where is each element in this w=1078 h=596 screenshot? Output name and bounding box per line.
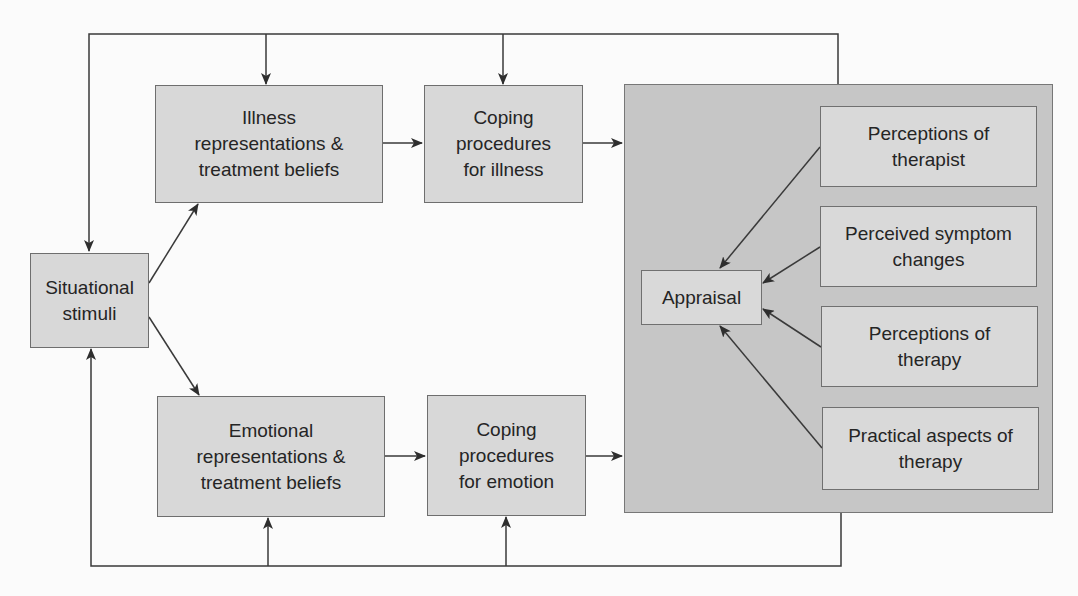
appraisal-box: Appraisal [641,270,762,325]
illness-rep-line1: Illness [195,105,344,131]
illness-rep-line3: treatment beliefs [195,157,344,183]
situational-stimuli-box: Situational stimuli [30,253,149,348]
situational-stimuli-line1: Situational [45,275,134,301]
emotional-rep-line1: Emotional [197,418,346,444]
practical-aspects-box: Practical aspects of therapy [822,407,1039,490]
perceived-symptom-line1: Perceived symptom [845,221,1012,247]
practical-aspects-line1: Practical aspects of [848,423,1013,449]
emotional-rep-line3: treatment beliefs [197,470,346,496]
emotional-representations-box: Emotional representations & treatment be… [157,396,385,517]
appraisal-label: Appraisal [662,285,741,311]
coping-emotion-line3: for emotion [459,469,554,495]
coping-illness-box: Coping procedures for illness [424,85,583,203]
perceived-symptom-changes-box: Perceived symptom changes [820,206,1037,287]
coping-illness-line2: procedures [456,131,551,157]
perceptions-therapist-box: Perceptions of therapist [820,106,1037,187]
situational-stimuli-line2: stimuli [45,301,134,327]
perceptions-therapy-box: Perceptions of therapy [821,306,1038,387]
perceptions-therapist-line2: therapist [868,147,989,173]
coping-illness-line1: Coping [456,105,551,131]
emotional-rep-line2: representations & [197,444,346,470]
perceptions-therapy-line2: therapy [869,347,990,373]
perceptions-therapist-line1: Perceptions of [868,121,989,147]
perceived-symptom-line2: changes [845,247,1012,273]
perceptions-therapy-line1: Perceptions of [869,321,990,347]
coping-emotion-line1: Coping [459,417,554,443]
coping-emotion-line2: procedures [459,443,554,469]
illness-representations-box: Illness representations & treatment beli… [155,85,383,203]
self-regulation-diagram: Situational stimuli Illness representati… [0,0,1078,596]
illness-rep-line2: representations & [195,131,344,157]
practical-aspects-line2: therapy [848,449,1013,475]
coping-emotion-box: Coping procedures for emotion [427,395,586,516]
coping-illness-line3: for illness [456,157,551,183]
